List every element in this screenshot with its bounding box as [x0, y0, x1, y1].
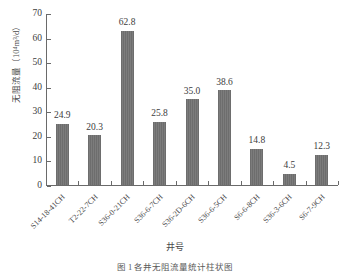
y-tick-mark	[47, 88, 51, 89]
y-tick-label: 30	[33, 108, 43, 118]
bar	[56, 124, 69, 185]
bar	[218, 90, 231, 185]
x-axis-title-text: 井号	[166, 242, 184, 252]
x-tick-mark	[306, 181, 307, 185]
y-tick-label: 20	[33, 132, 43, 142]
bar-value-label: 4.5	[283, 161, 295, 171]
y-tick-mark	[47, 63, 51, 64]
bar	[121, 31, 134, 185]
x-tick-mark	[143, 181, 144, 185]
bar-value-label: 35.0	[184, 87, 201, 97]
bar-value-label: 14.8	[249, 136, 266, 146]
y-tick-mark	[47, 39, 51, 40]
bar-value-label: 20.3	[86, 123, 103, 133]
y-tick-label: 60	[33, 34, 43, 44]
plot-area: 010203040506070 24.920.362.825.835.038.6…	[46, 14, 338, 186]
y-tick-mark	[47, 14, 51, 15]
bar-value-label: 25.8	[151, 109, 168, 119]
bar-value-label: 12.3	[313, 142, 330, 152]
bar	[250, 149, 263, 185]
y-tick-label: 50	[33, 58, 43, 68]
y-axis-title: 无阻流量（10⁴m³/d）	[12, 2, 21, 122]
bar	[88, 135, 101, 185]
figure-caption: 图 1 各井无阻流量统计柱状图	[0, 260, 350, 272]
bar-value-label: 38.6	[216, 78, 233, 88]
x-tick-mark	[111, 181, 112, 185]
x-tick-mark	[176, 181, 177, 185]
x-axis-title: 井号	[0, 240, 350, 253]
x-tick-mark	[241, 181, 242, 185]
bar-chart-figure: 无阻流量（10⁴m³/d） 010203040506070 24.920.362…	[0, 0, 350, 272]
bar-value-label: 62.8	[119, 18, 136, 28]
x-axis-line	[46, 185, 338, 186]
y-tick-mark	[47, 137, 51, 138]
bar	[186, 99, 199, 185]
x-tick-mark	[338, 181, 339, 185]
y-axis-title-text: 无阻流量（10⁴m³/d）	[11, 22, 21, 103]
y-tick-mark	[47, 186, 51, 187]
figure-caption-text: 图 1 各井无阻流量统计柱状图	[117, 262, 234, 272]
x-tick-mark	[46, 181, 47, 185]
bar	[315, 155, 328, 185]
y-tick-mark	[47, 112, 51, 113]
y-tick-mark	[47, 161, 51, 162]
y-axis-line	[46, 14, 47, 186]
y-tick-label: 70	[33, 9, 43, 19]
x-tick-mark	[78, 181, 79, 185]
bar-value-label: 24.9	[54, 111, 71, 121]
x-tick-mark	[208, 181, 209, 185]
bar	[153, 122, 166, 185]
y-tick-label: 0	[37, 181, 42, 191]
x-tick-mark	[273, 181, 274, 185]
y-tick-label: 10	[33, 157, 43, 167]
y-tick-label: 40	[33, 83, 43, 93]
bar	[283, 174, 296, 185]
